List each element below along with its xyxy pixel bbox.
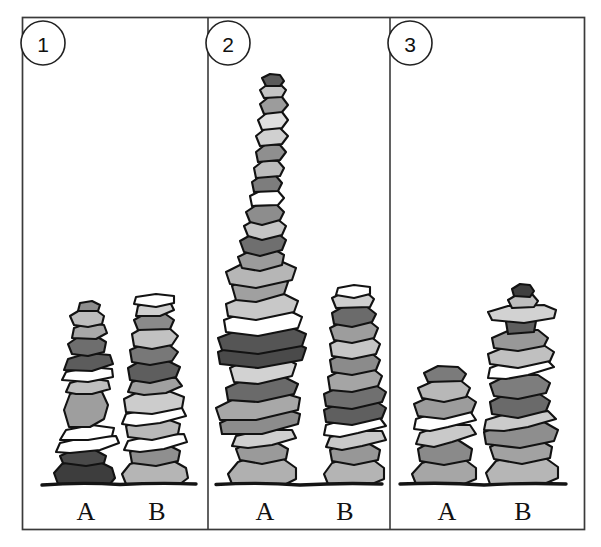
ground-line-panel-3	[400, 483, 566, 485]
cairn-panel3-stack-b	[484, 284, 558, 484]
label-panel3-a: A	[438, 497, 457, 526]
label-panel2-b: B	[336, 497, 353, 526]
panel-badge-2-label: 2	[222, 33, 234, 56]
panel-badge-2: 2	[206, 21, 250, 65]
panel-badge-1: 1	[21, 21, 65, 65]
panel-badge-3: 3	[388, 21, 432, 65]
label-panel1-a: A	[77, 497, 96, 526]
ground-line-panel-1	[42, 483, 196, 485]
label-panel3-b: B	[514, 497, 531, 526]
cairn-comparison-figure: 1 2 3 A B A B A B	[0, 0, 601, 547]
cairn-panel2-stack-b	[324, 285, 386, 484]
label-panel1-b: B	[148, 497, 165, 526]
panel-badge-1-label: 1	[37, 33, 49, 56]
ground-line-panel-2	[216, 483, 382, 485]
panel-badge-3-label: 3	[404, 33, 416, 56]
figure-canvas: 1 2 3 A B A B A B	[0, 0, 601, 547]
label-panel2-a: A	[256, 497, 275, 526]
